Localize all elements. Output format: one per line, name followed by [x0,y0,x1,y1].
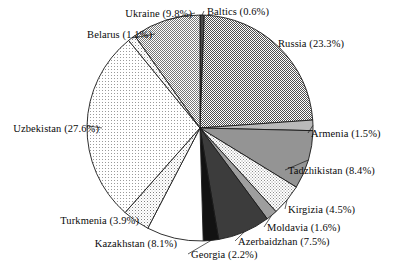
pie-slice-russia[interactable] [200,15,313,128]
pie-label-georgia: Georgia (2.2%) [191,249,258,261]
pie-label-kazakhstan: Kazakhstan (8.1%) [0,238,177,250]
pie-label-turkmenia: Turkmenia (3.9%) [0,215,139,227]
pie-label-azerbaidzhan: Azerbaidzhan (7.5%) [238,236,330,248]
pie-label-uzbekistan: Uzbekistan (27.6%) [0,123,99,135]
leader-line-baltics [202,11,204,15]
pie-label-kirgizia: Kirgizia (4.5%) [288,204,355,216]
pie-label-armenia: Armenia (1.5%) [311,128,381,140]
pie-chart-figure: Baltics (0.6%)Russia (23.3%)Armenia (1.5… [0,0,401,264]
pie-label-ukraine: Ukraine (9.8%) [0,8,192,20]
pie-label-baltics: Baltics (0.6%) [207,6,269,18]
pie-label-belarus: Belarus (1.1%) [0,29,152,41]
pie-label-russia: Russia (23.3%) [278,38,344,50]
pie-label-tadzhikistan: Tadzhikistan (8.4%) [288,165,375,177]
pie-label-moldavia: Moldavia (1.6%) [267,222,340,234]
